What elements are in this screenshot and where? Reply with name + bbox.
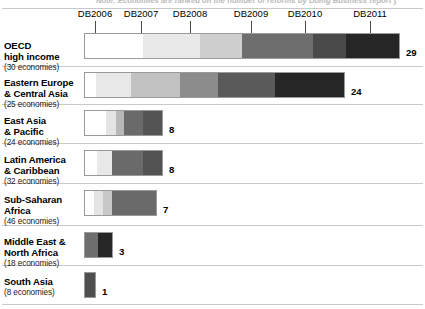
bar-segment [96, 73, 131, 97]
economies-count: (46 economies) [4, 216, 82, 227]
region-name-line2: North Africa [4, 247, 82, 258]
bar-segment [313, 34, 347, 58]
economies-count: (32 economies) [4, 176, 82, 187]
row-label-3: East Asia& Pacific(24 economies) [4, 115, 82, 148]
bar-segment [143, 151, 163, 175]
bar-segment [116, 111, 124, 135]
row-label-7: South Asia(8 economies) [4, 276, 82, 298]
region-name-line2: Africa [4, 205, 82, 216]
region-name-line1: OECD [4, 40, 82, 51]
bar-segment [180, 73, 218, 97]
economies-count: (24 economies) [4, 137, 82, 148]
row-separator [2, 304, 423, 305]
row-label-2: Eastern Europe& Central Asia(25 economie… [4, 77, 82, 110]
reforms-by-region-chart: Note: Economies are ranked on the number… [0, 0, 425, 309]
bar-segment [131, 73, 181, 97]
stacked-bar-5 [84, 190, 157, 216]
bar-segment [106, 111, 116, 135]
bar-segment [112, 151, 142, 175]
bar-segment [103, 191, 113, 215]
row-separator [2, 8, 423, 9]
row-label-1: OECDhigh income(30 economies) [4, 40, 82, 73]
axis-tick-label: DB2008 [173, 8, 207, 19]
region-name-line1: South Asia [4, 276, 82, 287]
row-label-5: Sub-SaharanAfrica(46 economies) [4, 194, 82, 227]
economies-count: (25 economies) [4, 99, 82, 110]
axis-tick-label: DB2007 [124, 8, 158, 19]
bar-segment [85, 191, 94, 215]
region-name-line1: Eastern Europe [4, 77, 82, 88]
bar-segment [346, 34, 399, 58]
economies-count: (8 economies) [4, 287, 82, 298]
region-name-line2: & Caribbean [4, 165, 82, 176]
bar-segment [218, 73, 275, 97]
bar-total-value: 1 [102, 286, 107, 297]
bar-total-value: 29 [406, 47, 417, 58]
chart-note: Note: Economies are ranked on the number… [96, 0, 396, 5]
bar-segment [85, 233, 98, 257]
bar-segment [98, 233, 112, 257]
axis-tick-label: DB2010 [288, 8, 322, 19]
bar-segment [94, 191, 103, 215]
bar-segment [143, 111, 162, 135]
bar-total-value: 8 [169, 124, 174, 135]
bar-segment [85, 151, 97, 175]
bar-segment [85, 73, 96, 97]
region-name-line2: & Central Asia [4, 88, 82, 99]
region-name-line1: Sub-Saharan [4, 194, 82, 205]
economies-count: (18 economies) [4, 258, 82, 269]
region-name-line1: Middle East & [4, 236, 82, 247]
bar-total-value: 7 [163, 204, 168, 215]
bar-segment [143, 34, 201, 58]
bar-segment [85, 273, 95, 297]
region-name-line1: Latin America [4, 154, 82, 165]
bar-segment [97, 151, 113, 175]
bar-segment [112, 191, 156, 215]
row-label-4: Latin America& Caribbean(32 economies) [4, 154, 82, 187]
axis-tick-label: DB2009 [234, 8, 268, 19]
region-name-line2: & Pacific [4, 126, 82, 137]
bar-segment [275, 73, 344, 97]
economies-count: (30 economies) [4, 62, 82, 73]
bar-total-value: 8 [169, 164, 174, 175]
bar-total-value: 3 [119, 246, 124, 257]
row-label-6: Middle East &North Africa(18 economies) [4, 236, 82, 269]
axis-tick-label: DB2006 [78, 8, 112, 19]
bar-segment [124, 111, 144, 135]
axis-tick-label: DB2011 [353, 8, 387, 19]
bar-segment [242, 34, 313, 58]
bar-segment [200, 34, 242, 58]
region-name-line1: East Asia [4, 115, 82, 126]
stacked-bar-6 [84, 232, 113, 258]
stacked-bar-7 [84, 272, 96, 298]
axis-header: DB2006DB2007DB2008DB2009DB2010DB2011 [0, 8, 425, 34]
stacked-bar-3 [84, 110, 163, 136]
stacked-bar-4 [84, 150, 163, 176]
bar-segment [85, 111, 106, 135]
stacked-bar-2 [84, 72, 345, 98]
stacked-bar-1 [84, 33, 400, 59]
bar-segment [85, 34, 143, 58]
bar-total-value: 24 [351, 86, 362, 97]
region-name-line2: high income [4, 51, 82, 62]
